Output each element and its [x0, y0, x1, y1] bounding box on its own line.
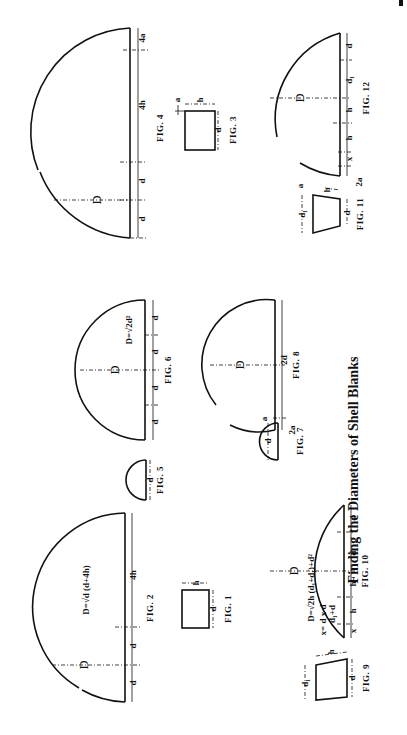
- label-d: d: [348, 515, 358, 520]
- label-d: d: [150, 385, 160, 390]
- label-2a: 2a: [354, 177, 364, 187]
- fig-8: D 2d 2a FIG. 8: [202, 299, 301, 434]
- label-D: D: [293, 93, 307, 102]
- label-d: d: [347, 675, 357, 680]
- fig-3-label: FIG. 3: [228, 116, 238, 144]
- label-h: h: [348, 608, 358, 613]
- fig-1: h d FIG. 1: [182, 580, 233, 628]
- fig-6-label: FIG. 6: [163, 356, 173, 384]
- fig-4-label: FIG. 4: [155, 114, 165, 142]
- formula-fig10-x-den: d₁+d: [327, 605, 337, 623]
- label-h: h: [195, 97, 205, 102]
- fig-9: d₁ h d FIG. 9: [300, 649, 371, 700]
- formula-fig6: D=√2d²: [124, 315, 134, 344]
- formula-fig10-D: D=√2h (d₁+d₁)+d²: [306, 554, 316, 622]
- label-h: h: [348, 581, 358, 586]
- label-4a: 4a: [137, 33, 147, 43]
- label-d: d: [344, 43, 354, 48]
- label-d1: d₁: [300, 679, 310, 687]
- fig-1-label: FIG. 1: [223, 595, 233, 623]
- fig-12: D d d₁ h h x 2a FIG. 12: [270, 33, 371, 187]
- label-D: D: [287, 566, 301, 575]
- label-h: h: [326, 649, 336, 654]
- label-d: d: [150, 349, 160, 354]
- label-d: d: [128, 680, 138, 685]
- label-4h: 4h: [128, 570, 138, 580]
- formula-fig2: D=√d (d+4h): [81, 565, 91, 614]
- label-d: d: [208, 606, 218, 611]
- label-2d: 2d: [279, 355, 289, 365]
- label-D: D: [108, 365, 122, 374]
- label-d: d: [145, 477, 155, 482]
- fig-11-label: FIG. 11: [355, 198, 365, 231]
- fig-8-label: FIG. 8: [291, 351, 301, 379]
- fig-2-label: FIG. 2: [145, 594, 155, 622]
- fig-9-label: FIG. 9: [361, 664, 371, 692]
- fig-2: D D=√d (d+4h) 4h d d FIG. 2: [33, 513, 155, 702]
- label-d: d: [342, 210, 352, 215]
- fig-11: d₁ h a d FIG. 11: [295, 183, 365, 233]
- label-h: h: [344, 107, 354, 112]
- label-d: d: [137, 216, 147, 221]
- label-x: x: [344, 156, 354, 161]
- label-a: a: [259, 416, 269, 421]
- fig-5-label: FIG. 5: [155, 466, 165, 494]
- label-d: d: [128, 643, 138, 648]
- fig-7-label: FIG. 7: [295, 427, 305, 455]
- label-D: D: [77, 660, 91, 669]
- label-D: D: [233, 360, 247, 369]
- label-d1: d₁: [344, 76, 354, 84]
- label-d: d: [137, 178, 147, 183]
- label-d: d: [263, 438, 273, 443]
- fig-12-label: FIG. 12: [361, 81, 371, 114]
- label-h: h: [322, 187, 332, 192]
- label-a: a: [295, 183, 305, 188]
- fig-4: D 4a 4h d d FIG. 4: [31, 28, 165, 238]
- label-d: d: [150, 419, 160, 424]
- fig-6: D D=√2d² d d d d FIG. 6: [75, 300, 173, 440]
- fig-10-label: FIG. 10: [360, 554, 370, 587]
- fig-5: d FIG. 5: [126, 460, 165, 500]
- label-d1: d₁: [348, 548, 358, 556]
- label-d: d: [150, 315, 160, 320]
- label-h: h: [344, 135, 354, 140]
- label-x: x: [348, 628, 358, 633]
- label-D: D: [90, 195, 104, 204]
- label-d1: d₁: [297, 210, 307, 218]
- label-a: a: [172, 97, 182, 102]
- fig-3: a h d FIG. 3: [172, 97, 238, 150]
- diagram-canvas: Finding the Diameters of Shell Blanks D …: [0, 0, 407, 735]
- label-h: h: [191, 580, 201, 585]
- label-4h: 4h: [137, 100, 147, 110]
- label-d: d: [213, 127, 223, 132]
